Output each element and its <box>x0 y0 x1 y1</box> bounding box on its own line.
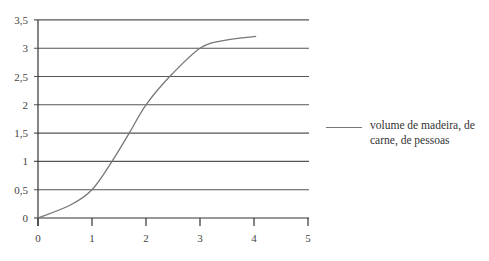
x-tick-label: 5 <box>305 232 311 244</box>
data-series-line <box>38 36 256 218</box>
x-tick-label: 0 <box>35 232 41 244</box>
y-tick-label: 2,5 <box>14 71 28 83</box>
y-tick-label: 3 <box>23 42 29 54</box>
axes <box>34 20 309 226</box>
y-tick-label: 2 <box>23 99 29 111</box>
legend-line-swatch <box>326 127 362 128</box>
y-tick-label: 0,5 <box>14 184 28 196</box>
chart-legend: volume de madeira, de carne, de pessoas <box>326 118 489 148</box>
x-tick-label: 2 <box>143 232 149 244</box>
y-tick-label: 1,5 <box>14 127 28 139</box>
x-tick-label: 4 <box>251 232 257 244</box>
x-tick-label: 1 <box>89 232 95 244</box>
y-tick-label: 1 <box>23 155 29 167</box>
y-tick-label: 3,5 <box>14 14 28 26</box>
x-tick-label: 3 <box>197 232 203 244</box>
horizontal-gridlines <box>34 20 309 190</box>
legend-label: volume de madeira, de carne, de pessoas <box>370 118 489 148</box>
y-tick-label: 0 <box>23 212 29 224</box>
